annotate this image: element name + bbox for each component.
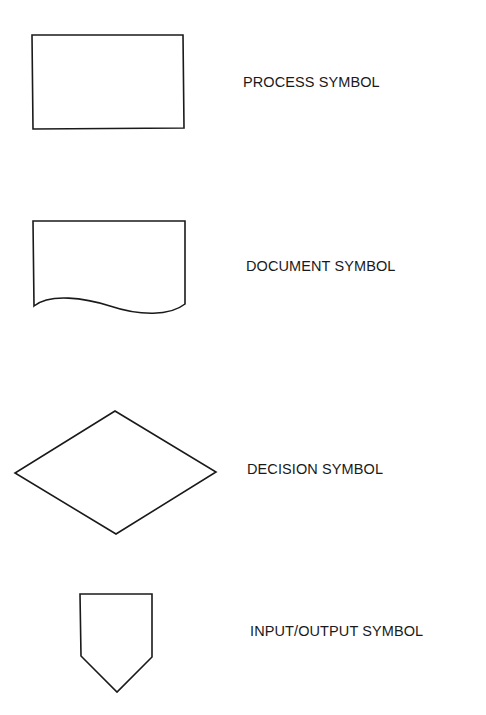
input-output-symbol-label: INPUT/OUTPUT SYMBOL: [250, 623, 423, 639]
decision-symbol-shape: [15, 411, 216, 534]
process-symbol-shape: [32, 35, 184, 129]
input-output-symbol-shape: [80, 594, 152, 692]
document-symbol-shape: [33, 221, 185, 313]
document-symbol-label: DOCUMENT SYMBOL: [246, 258, 395, 274]
process-symbol-label: PROCESS SYMBOL: [243, 74, 380, 90]
symbol-legend-canvas: [0, 0, 486, 715]
decision-symbol-label: DECISION SYMBOL: [247, 461, 383, 477]
